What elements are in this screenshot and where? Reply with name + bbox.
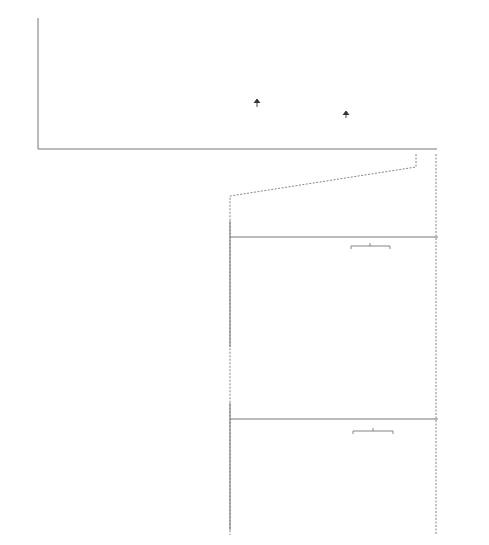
huon-panel	[230, 403, 438, 530]
stage-3-bracket	[351, 243, 390, 249]
arrow-20-icon	[343, 111, 349, 118]
figure	[0, 0, 489, 545]
d18o-panel	[20, 18, 437, 149]
stage-3-bracket	[353, 428, 393, 434]
barbados-panel	[230, 221, 438, 347]
zoom-connector-left	[230, 154, 416, 535]
arrow-52-icon	[254, 99, 260, 107]
